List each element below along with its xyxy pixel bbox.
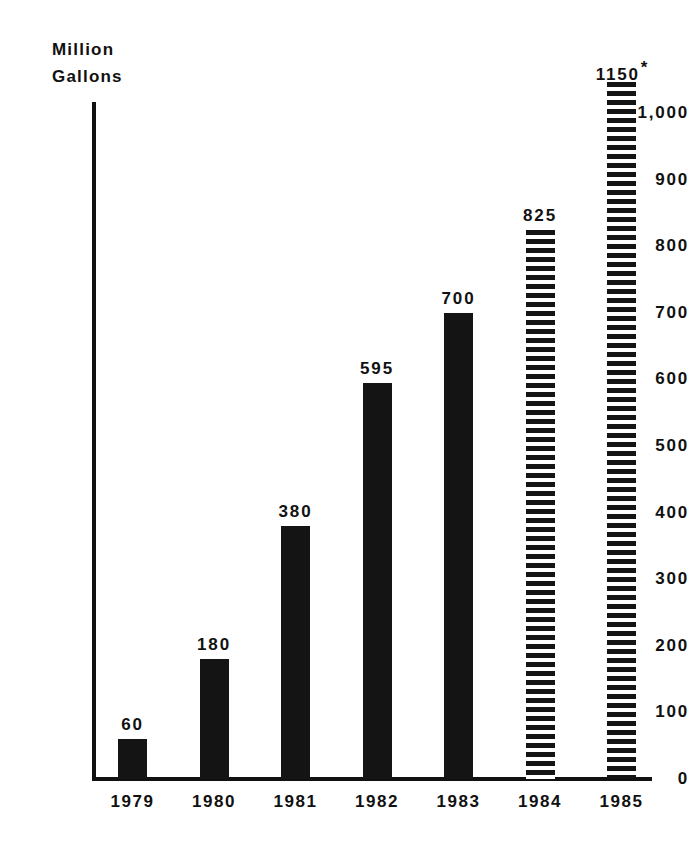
bar-chart: Million Gallons 010020030040050060070080… [0, 0, 689, 853]
x-axis-tick-label-1981: 1981 [273, 792, 317, 812]
x-axis-tick-label-1983: 1983 [436, 792, 480, 812]
bar-1984 [526, 230, 555, 779]
x-axis-tick-label-1982: 1982 [355, 792, 399, 812]
bar-value-label-1980: 180 [197, 635, 231, 655]
bar-1980 [200, 659, 229, 779]
x-axis-tick-label-1985: 1985 [599, 792, 643, 812]
y-axis-title-line1: Million [52, 36, 114, 63]
x-axis-tick-label-1980: 1980 [192, 792, 236, 812]
x-axis-tick-label-1979: 1979 [110, 792, 154, 812]
bar-value-label-1983: 700 [442, 289, 476, 309]
bar-1981 [281, 526, 310, 779]
projection-asterisk: * [641, 58, 648, 77]
y-axis-title-line2: Gallons [52, 63, 123, 90]
bar-1979 [118, 739, 147, 779]
bar-value-label-1984: 825 [523, 206, 557, 226]
bar-1982 [363, 383, 392, 779]
x-axis-tick-label-1984: 1984 [518, 792, 562, 812]
bar-1983 [444, 313, 473, 779]
bar-value-label-1979: 60 [121, 715, 144, 735]
bar-value-label-1985: 1150* [596, 58, 648, 85]
bar-1985 [607, 82, 636, 779]
bar-value-label-1982: 595 [360, 359, 394, 379]
bar-value-label-1981: 380 [279, 502, 313, 522]
y-axis-line [92, 102, 96, 781]
